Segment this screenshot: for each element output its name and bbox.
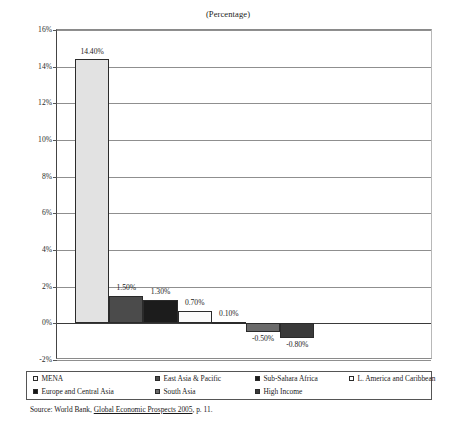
- legend-label: South Asia: [163, 388, 195, 395]
- legend-swatch-icon: [255, 389, 260, 394]
- legend-row: Europe and Central AsiaSouth AsiaHigh In…: [27, 388, 431, 400]
- y-axis-tick-label: 4%: [6, 246, 52, 254]
- y-axis-tick-label: 14%: [6, 63, 52, 71]
- legend-item-l-america-and-caribbean[interactable]: L. America and Caribbean: [349, 375, 435, 382]
- legend-item-high-income[interactable]: High Income: [255, 388, 302, 395]
- y-axis-tick-label: -2%: [6, 356, 52, 364]
- chart-legend: MENAEast Asia & PacificSub-Sahara Africa…: [26, 371, 432, 400]
- y-axis-tick-label: 10%: [6, 136, 52, 144]
- plot-frame: 16%14%12%10%8%6%4%2%0%-2%14.40%1.50%1.30…: [56, 29, 432, 359]
- legend-item-east-asia-pacific[interactable]: East Asia & Pacific: [155, 375, 221, 382]
- legend-swatch-icon: [33, 389, 38, 394]
- gridline-10: [57, 140, 431, 141]
- chart-title: (Percentage): [0, 9, 456, 19]
- bar-south-asia[interactable]: [246, 323, 280, 332]
- legend-swatch-icon: [155, 376, 160, 381]
- y-axis-tick-mark: [53, 360, 57, 361]
- y-axis-tick-label: 8%: [6, 173, 52, 181]
- legend-swatch-icon: [349, 376, 354, 381]
- y-axis-tick-label: 12%: [6, 100, 52, 108]
- bar-value-label: 0.10%: [209, 310, 249, 318]
- gridline-neg2: [57, 360, 431, 361]
- legend-item-sub-sahara-africa[interactable]: Sub-Sahara Africa: [255, 375, 318, 382]
- y-axis-tick-mark: [53, 177, 57, 178]
- bar-high-income[interactable]: [280, 323, 314, 338]
- legend-label: East Asia & Pacific: [163, 375, 221, 382]
- bar-mena[interactable]: [75, 59, 109, 323]
- legend-item-europe-and-central-asia[interactable]: Europe and Central Asia: [33, 388, 114, 395]
- bar-sub-sahara-africa[interactable]: [143, 300, 177, 324]
- y-axis-tick-mark: [53, 30, 57, 31]
- bar-east-asia-pacific[interactable]: [109, 296, 143, 324]
- bar-europe-and-central-asia[interactable]: [212, 322, 246, 324]
- y-axis-tick-mark: [53, 287, 57, 288]
- y-axis-tick-mark: [53, 250, 57, 251]
- bar-l-america-and-caribbean[interactable]: [178, 311, 212, 324]
- bar-value-label: 1.30%: [140, 288, 180, 296]
- legend-swatch-icon: [255, 376, 260, 381]
- source-prefix: Source: World Bank,: [30, 405, 94, 414]
- bar-value-label: 0.70%: [175, 299, 215, 307]
- source-suffix: , p. 11.: [192, 405, 212, 414]
- legend-swatch-icon: [155, 389, 160, 394]
- y-axis-tick-mark: [53, 67, 57, 68]
- bar-value-label: -0.80%: [277, 341, 317, 349]
- legend-label: MENA: [41, 375, 63, 382]
- y-axis-tick-mark: [53, 140, 57, 141]
- gridline-6: [57, 213, 431, 214]
- source-note: Source: World Bank, Global Economic Pros…: [30, 405, 213, 414]
- y-axis-tick-mark: [53, 103, 57, 104]
- legend-label: Sub-Sahara Africa: [263, 375, 317, 382]
- legend-swatch-icon: [33, 376, 38, 381]
- bar-value-label: 14.40%: [72, 48, 112, 56]
- y-axis-tick-label: 6%: [6, 210, 52, 218]
- y-axis-tick-mark: [53, 323, 57, 324]
- y-axis-tick-mark: [53, 213, 57, 214]
- gridline-4: [57, 250, 431, 251]
- legend-label: High Income: [263, 388, 302, 395]
- plot-area: 16%14%12%10%8%6%4%2%0%-2%14.40%1.50%1.30…: [57, 30, 431, 358]
- legend-label: Europe and Central Asia: [41, 388, 113, 395]
- y-axis-tick-label: 0%: [6, 320, 52, 328]
- gridline-16: [57, 30, 431, 31]
- gridline-14: [57, 67, 431, 68]
- y-axis-tick-label: 2%: [6, 283, 52, 291]
- gridline-12: [57, 103, 431, 104]
- y-axis-tick-label: 16%: [6, 26, 52, 34]
- figure-container: (Percentage) 16%14%12%10%8%6%4%2%0%-2%14…: [0, 0, 456, 430]
- legend-row: MENAEast Asia & PacificSub-Sahara Africa…: [27, 375, 431, 387]
- legend-item-south-asia[interactable]: South Asia: [155, 388, 196, 395]
- legend-label: L. America and Caribbean: [357, 375, 435, 382]
- legend-item-mena[interactable]: MENA: [33, 375, 63, 382]
- source-publication-title: Global Economic Prospects 2005: [94, 405, 193, 414]
- gridline-8: [57, 177, 431, 178]
- caption-remnant: [22, 424, 442, 430]
